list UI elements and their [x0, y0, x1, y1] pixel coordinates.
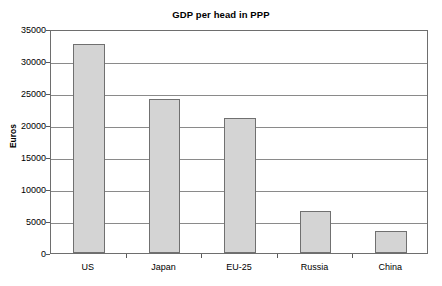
y-axis-tick-label: 10000 — [0, 186, 46, 195]
x-axis-tick-mark — [277, 254, 278, 258]
gridline — [51, 95, 427, 96]
bar — [300, 211, 332, 253]
y-axis-tick-label: 25000 — [0, 90, 46, 99]
y-axis-tick-label: 20000 — [0, 122, 46, 131]
gdp-per-head-bar-chart: GDP per head in PPP Euros 05000100001500… — [0, 0, 442, 286]
x-axis-tick-mark — [352, 254, 353, 258]
bar — [375, 231, 407, 253]
x-axis-tick-mark — [126, 254, 127, 258]
chart-title: GDP per head in PPP — [0, 9, 442, 20]
y-axis-tick-label: 35000 — [0, 26, 46, 35]
plot-area — [50, 30, 428, 254]
y-axis-tick-mark — [46, 254, 50, 255]
bar — [149, 99, 181, 253]
y-axis-tick-label: 0 — [0, 250, 46, 259]
gridline — [51, 63, 427, 64]
y-axis-tick-label: 15000 — [0, 154, 46, 163]
x-axis-tick-mark — [201, 254, 202, 258]
bar — [73, 44, 105, 253]
y-axis-tick-label: 30000 — [0, 58, 46, 67]
bar — [224, 118, 256, 253]
x-axis-tick-label: China — [345, 262, 435, 272]
y-axis-tick-label: 5000 — [0, 218, 46, 227]
